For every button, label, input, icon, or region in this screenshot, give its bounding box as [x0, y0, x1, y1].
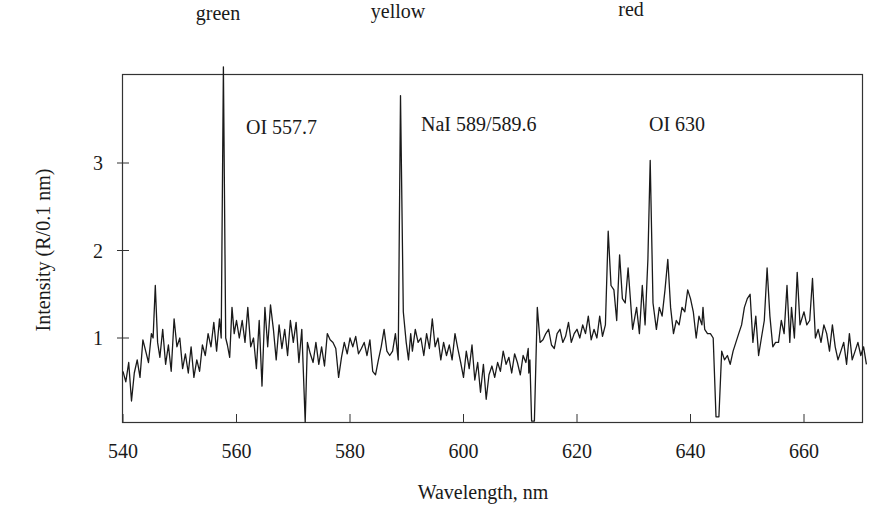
annotation-oi-630: OI 630	[649, 113, 705, 135]
x-axis-ticks: 540560580600620640660	[108, 414, 819, 462]
x-tick-label: 580	[335, 440, 365, 462]
band-label-green: green	[196, 2, 240, 25]
x-tick-label: 620	[562, 440, 592, 462]
y-tick-label: 1	[93, 327, 103, 349]
x-tick-label: 540	[108, 440, 138, 462]
band-label-yellow: yellow	[371, 0, 426, 23]
annotation-oi-557: OI 557.7	[246, 116, 317, 138]
y-axis-ticks: 123	[93, 152, 129, 349]
x-tick-label: 640	[676, 440, 706, 462]
annotation-nai-589: NaI 589/589.6	[421, 113, 537, 135]
x-tick-label: 660	[789, 440, 819, 462]
x-tick-label: 560	[222, 440, 252, 462]
spectrum-chart: 540560580600620640660 123 green yellow r…	[0, 0, 888, 532]
x-tick-label: 600	[449, 440, 479, 462]
x-axis-title: Wavelength, nm	[418, 481, 549, 504]
y-tick-label: 3	[93, 152, 103, 174]
band-label-red: red	[618, 0, 644, 20]
y-axis-title: Intensity (R/0.1 nm)	[32, 169, 55, 332]
y-tick-label: 2	[93, 240, 103, 262]
